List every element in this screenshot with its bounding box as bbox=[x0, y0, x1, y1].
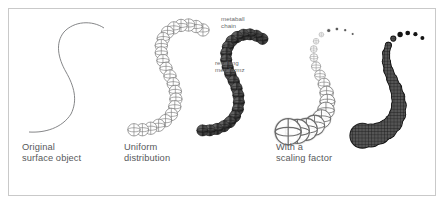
scaled-sphere-chain bbox=[275, 28, 353, 145]
caption-with-a-scaling-factor: With a scaling factor bbox=[276, 142, 332, 163]
scaled-metaform bbox=[349, 31, 424, 149]
figure-canvas: metaball chain resulting metaformz Origi… bbox=[0, 0, 446, 208]
caption-uniform-distribution: Uniform distribution bbox=[124, 142, 170, 163]
caption-original-surface-object: Original surface object bbox=[22, 142, 81, 163]
figure-graphics bbox=[0, 0, 446, 208]
uniform-metaform bbox=[197, 29, 268, 136]
annotation-resulting-metaformz: resulting metaformz bbox=[215, 59, 245, 73]
annotation-metaball-chain: metaball chain bbox=[221, 15, 245, 29]
uniform-sphere-chain bbox=[128, 19, 209, 136]
original-surface-curve bbox=[29, 23, 104, 132]
